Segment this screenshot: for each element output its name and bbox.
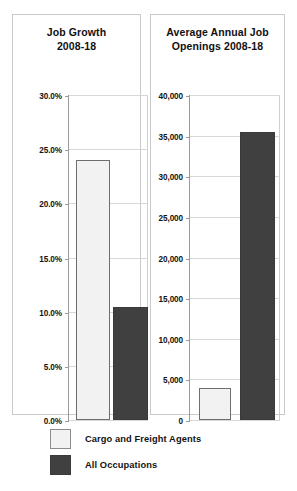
ytick-label-35000: 35,000 — [159, 132, 183, 141]
tick-mark-25000 — [186, 218, 190, 219]
gridline-0: 0 — [190, 420, 280, 421]
plot-area-job-openings: 40,000 35,000 30,000 25,000 20,000 15,00… — [189, 95, 280, 421]
tick-mark-40000 — [186, 96, 190, 97]
legend-swatch-light-icon — [50, 429, 71, 449]
tick-mark-20000 — [186, 259, 190, 260]
chart-legend: Cargo and Freight Agents All Occupations — [50, 428, 280, 480]
bar-all-occupations-job-growth[interactable] — [113, 307, 148, 420]
tick-mark-0 — [65, 421, 69, 422]
gridline-40000: 40,000 — [190, 95, 280, 96]
ytick-label-20: 20.0% — [39, 200, 62, 209]
ytick-label-15: 15.0% — [39, 254, 62, 263]
tick-mark-20 — [65, 204, 69, 205]
bar-cargo-and-freight-agents-job-openings[interactable] — [199, 388, 231, 421]
legend-item-cargo-and-freight-agents[interactable]: Cargo and Freight Agents — [50, 428, 280, 450]
chart-card-job-growth: Job Growth 2008-18 30.0% 25.0% 20.0% 15.… — [12, 14, 141, 415]
ytick-label-30000: 30,000 — [159, 173, 183, 182]
tick-mark-10000 — [186, 340, 190, 341]
tick-mark-0 — [186, 421, 190, 422]
tick-mark-30000 — [186, 177, 190, 178]
chart-card-job-openings: Average Annual Job Openings 2008-18 40,0… — [150, 14, 285, 415]
gridline-25: 25.0% — [69, 149, 148, 150]
tick-mark-5000 — [186, 380, 190, 381]
ytick-label-5000: 5,000 — [163, 376, 183, 385]
ytick-label-30: 30.0% — [39, 92, 62, 101]
plot-area-job-growth: 30.0% 25.0% 20.0% 15.0% 10.0% 5.0% 0.0% — [68, 95, 148, 421]
legend-swatch-dark-icon — [50, 455, 71, 475]
ytick-label-25000: 25,000 — [159, 213, 183, 222]
legend-label-cargo-and-freight-agents: Cargo and Freight Agents — [85, 434, 201, 444]
chart-title-job-growth: Job Growth 2008-18 — [13, 26, 140, 53]
ytick-label-0: 0.0% — [44, 417, 62, 426]
ytick-label-15000: 15,000 — [159, 295, 183, 304]
chart-title-job-openings: Average Annual Job Openings 2008-18 — [151, 26, 284, 53]
legend-label-all-occupations: All Occupations — [85, 460, 157, 470]
gridline-30: 30.0% — [69, 95, 148, 96]
ytick-label-0: 0 — [179, 417, 183, 426]
tick-mark-15000 — [186, 299, 190, 300]
ytick-label-10: 10.0% — [39, 308, 62, 317]
tick-mark-35000 — [186, 137, 190, 138]
tick-mark-25 — [65, 150, 69, 151]
tick-mark-10 — [65, 313, 69, 314]
legend-item-all-occupations[interactable]: All Occupations — [50, 454, 280, 476]
tick-mark-5 — [65, 367, 69, 368]
bar-all-occupations-job-openings[interactable] — [240, 132, 275, 420]
tick-mark-15 — [65, 259, 69, 260]
ytick-label-10000: 10,000 — [159, 335, 183, 344]
tick-mark-30 — [65, 96, 69, 97]
ytick-label-20000: 20,000 — [159, 254, 183, 263]
ytick-label-40000: 40,000 — [159, 92, 183, 101]
gridline-0: 0.0% — [69, 420, 148, 421]
ytick-label-25: 25.0% — [39, 146, 62, 155]
ytick-label-5: 5.0% — [44, 362, 62, 371]
bar-cargo-and-freight-agents-job-growth[interactable] — [76, 160, 110, 420]
